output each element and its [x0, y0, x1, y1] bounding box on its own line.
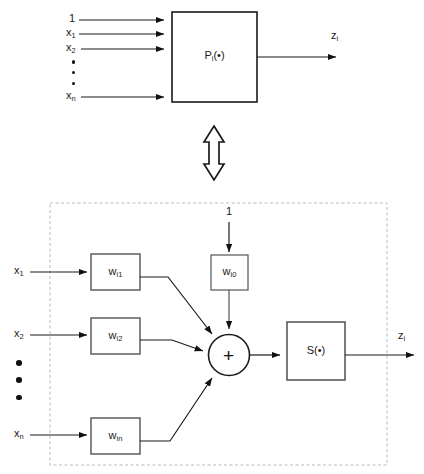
bottom-block-group [30, 203, 414, 465]
bottom-input-label-x1: x1 [14, 265, 24, 276]
w-i1-to-sum-arrow [140, 277, 212, 334]
weight-label-w-i1: wi1 [91, 266, 140, 277]
weight-label-w-i2: wi2 [91, 330, 140, 341]
bottom-input-label-xn: xn [14, 428, 24, 439]
diagram-svg [0, 0, 424, 474]
summing-junction-plus-symbol: + [223, 346, 234, 365]
weight-label-w-in: win [91, 430, 140, 441]
activation-box-label: S(•) [287, 345, 345, 356]
bottom-output-label: zi [398, 330, 405, 341]
equivalence-double-arrow-icon [204, 126, 224, 180]
top-input-label-xn: xn [66, 90, 76, 101]
top-output-label: zi [331, 30, 338, 41]
w-i2-to-sum-arrow [140, 340, 203, 351]
top-input-label-x2: x2 [66, 42, 76, 53]
diagram-canvas: 1 x1 x2 xn Pi(•) zi 1 wi0 x1 x2 xn wi1 [0, 0, 424, 474]
perceptron-box-label: Pi(•) [172, 50, 257, 61]
bottom-input-label-x2: x2 [14, 328, 24, 339]
bias-input-label: 1 [226, 206, 232, 217]
vertical-ellipsis-icon-bottom [16, 360, 22, 400]
top-input-label-bias: 1 [69, 13, 75, 24]
vertical-ellipsis-icon [71, 60, 76, 85]
w-in-to-sum-arrow [140, 378, 212, 441]
top-input-label-x1: x1 [66, 27, 76, 38]
weight-label-w-i0: wi0 [211, 266, 248, 277]
